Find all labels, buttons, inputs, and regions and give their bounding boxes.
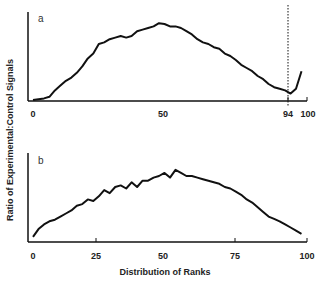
x-axis-label: Distribution of Ranks <box>119 267 210 277</box>
panel-a: a 0 50 94 100 <box>28 5 316 119</box>
y-axis-label: Ratio of Experimental:Control Signals <box>5 59 15 221</box>
tick-b-25: 25 <box>91 251 101 261</box>
panel-b: b 0 25 50 75 100 Distribution of Ranks <box>28 153 315 277</box>
tick-b-75: 75 <box>230 251 240 261</box>
panel-a-label: a <box>38 13 44 24</box>
figure: Ratio of Experimental:Control Signals a … <box>0 0 323 282</box>
panel-b-label: b <box>38 155 44 166</box>
tick-b-0: 0 <box>30 251 35 261</box>
tick-b-100: 100 <box>299 251 314 261</box>
tick-a-100: 100 <box>300 109 315 119</box>
tick-b-50: 50 <box>158 251 168 261</box>
tick-a-94: 94 <box>283 109 293 119</box>
series-line-b <box>33 170 302 237</box>
tick-a-50: 50 <box>158 109 168 119</box>
series-line-a <box>33 23 302 100</box>
tick-a-0: 0 <box>30 109 35 119</box>
